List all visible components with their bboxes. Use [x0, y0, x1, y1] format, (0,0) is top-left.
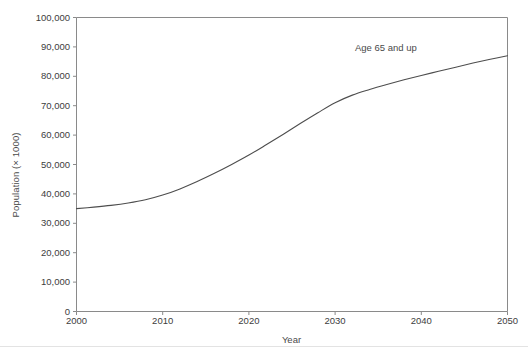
x-axis-tick-label: 2000	[47, 316, 107, 326]
y-axis-tick-label: 80,000	[18, 71, 70, 81]
x-axis-tick-label: 2030	[305, 316, 365, 326]
y-axis-tick-label: 100,000	[18, 13, 70, 23]
y-axis-tick-label: 30,000	[18, 218, 70, 228]
y-axis-tick-label: 90,000	[18, 42, 70, 52]
x-axis-tick-label: 2010	[133, 316, 193, 326]
x-axis-tick-label: 2050	[478, 316, 528, 326]
y-axis-tick-label: 10,000	[18, 277, 70, 287]
population-projection-chart: Population (× 1000) 010,00020,00030,0004…	[0, 0, 528, 350]
x-axis-tick-labels: 200020102020203020402050	[0, 316, 528, 330]
data-series-layer	[77, 56, 508, 209]
y-axis-tick-label: 0	[18, 307, 70, 317]
x-axis-tick-label: 2020	[219, 316, 279, 326]
plot-area	[0, 0, 528, 350]
y-axis-tick-label: 40,000	[18, 189, 70, 199]
axis-frame	[77, 18, 508, 312]
y-axis-tick-label: 70,000	[18, 101, 70, 111]
y-axis-tick-label: 50,000	[18, 160, 70, 170]
axis-ticks	[73, 18, 508, 316]
y-axis-tick-labels: 010,00020,00030,00040,00050,00060,00070,…	[14, 0, 70, 350]
data-line-age-65-and-up	[77, 56, 508, 209]
y-axis-tick-label: 20,000	[18, 248, 70, 258]
y-axis-tick-label: 60,000	[18, 130, 70, 140]
x-axis-title: Year	[76, 334, 507, 345]
x-axis-tick-label: 2040	[391, 316, 451, 326]
series-annotation-age-65-and-up: Age 65 and up	[355, 42, 417, 53]
